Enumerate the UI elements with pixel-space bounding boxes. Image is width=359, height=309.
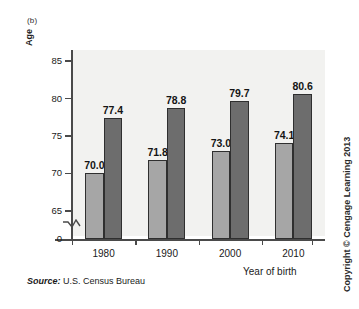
bar [230,101,249,239]
bar-value-label: 77.4 [97,104,129,116]
x-tick-mark [312,239,313,245]
y-tick-mark [65,173,73,175]
x-tick-label: 1990 [156,248,178,259]
x-tick-label: 1980 [93,248,115,259]
panel-label: (b) [27,16,37,25]
x-tick-label: 2010 [282,248,304,259]
bar [148,160,167,239]
axis-break-icon [63,219,81,235]
x-tick-mark [72,239,73,245]
y-tick-mark [65,135,73,137]
y-axis-line [71,50,73,236]
y-tick-mark [65,98,73,100]
x-axis-title: Year of birth [243,266,297,277]
bar [85,173,104,239]
y-tick-label: 70 [38,167,62,178]
y-axis-title: Age [24,29,34,46]
x-tick-label: 2000 [219,248,241,259]
source-note: Source: U.S. Census Bureau [27,276,145,286]
x-axis-line [55,239,325,241]
bar [275,143,294,239]
y-tick-mark [65,210,73,212]
bar-value-label: 80.6 [287,80,319,92]
source-prefix: Source: [27,276,61,286]
bar-value-label: 79.7 [223,87,255,99]
y-tick-label: 85 [38,55,62,66]
y-zero-label: 0 [38,233,62,244]
bar [293,94,312,239]
x-tick-mark [135,239,136,245]
copyright-notice: Copyright © Cengage Learning 2013 [342,137,352,292]
y-tick-label: 80 [38,93,62,104]
bar [104,118,123,239]
bar [167,108,186,239]
y-tick-mark [65,60,73,62]
bar [212,151,231,239]
source-text: U.S. Census Bureau [63,276,145,286]
bar-value-label: 78.8 [160,94,192,106]
x-tick-mark [199,239,200,245]
x-tick-mark [262,239,263,245]
y-tick-label: 75 [38,130,62,141]
y-tick-label: 65 [38,205,62,216]
